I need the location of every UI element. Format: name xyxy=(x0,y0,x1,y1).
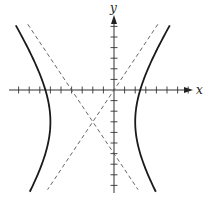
hyperbola-graph: x y xyxy=(0,0,211,201)
asymptote-positive-slope xyxy=(48,24,158,189)
asymptote-negative-slope xyxy=(28,24,138,189)
y-axis-arrow-icon xyxy=(111,15,117,24)
y-axis-label: y xyxy=(109,1,117,15)
axes: x y xyxy=(9,1,203,193)
hyperbola xyxy=(16,25,170,191)
asymptotes xyxy=(28,24,158,189)
x-axis-label: x xyxy=(196,83,203,97)
